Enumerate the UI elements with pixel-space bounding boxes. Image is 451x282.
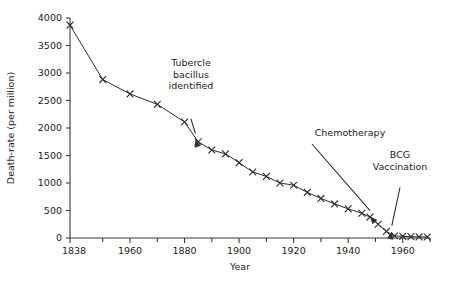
x-tick-label: 1880 bbox=[172, 245, 196, 256]
data-point-marker bbox=[208, 147, 215, 154]
y-tick-label: 2000 bbox=[38, 122, 62, 133]
annotation-arrow-shaft bbox=[191, 119, 195, 134]
data-point-marker bbox=[181, 119, 188, 126]
y-tick-label: 1000 bbox=[38, 177, 62, 188]
y-tick-label: 3000 bbox=[38, 67, 62, 78]
data-point-marker bbox=[318, 195, 325, 202]
data-point-marker bbox=[154, 101, 161, 108]
annotation-tubercle-bacillus: Tuberclebacillusidentified bbox=[169, 57, 214, 148]
tuberculosis-death-rate-chart: 05001000150020002500300035004000 1838196… bbox=[0, 0, 451, 282]
annotation-label: bacillus bbox=[173, 69, 209, 80]
data-point-marker bbox=[99, 76, 106, 83]
x-tick-label: 1940 bbox=[336, 245, 360, 256]
y-tick-label: 0 bbox=[56, 232, 62, 243]
data-point-marker bbox=[304, 189, 311, 196]
chart-annotations: TuberclebacillusidentifiedChemotherapyBC… bbox=[169, 57, 428, 240]
data-point-marker bbox=[127, 91, 134, 98]
data-point-marker bbox=[263, 173, 270, 180]
annotation-label: BCG bbox=[390, 149, 410, 160]
annotation-label: identified bbox=[169, 80, 214, 91]
chart-page: 05001000150020002500300035004000 1838196… bbox=[0, 0, 451, 282]
y-tick-label: 3500 bbox=[38, 40, 62, 51]
y-tick-label: 4000 bbox=[38, 12, 62, 23]
x-tick-label: 1900 bbox=[227, 245, 251, 256]
annotation-label: Tubercle bbox=[170, 57, 211, 68]
y-tick-label: 500 bbox=[44, 205, 62, 216]
x-tick-label: 1838 bbox=[62, 245, 86, 256]
y-axis-title: Death-rate (per million) bbox=[5, 72, 16, 184]
y-tick-label: 2500 bbox=[38, 95, 62, 106]
data-point-marker bbox=[249, 169, 256, 176]
x-tick-label: 1960 bbox=[118, 245, 142, 256]
data-point-marker bbox=[236, 159, 243, 166]
annotation-label: Vaccination bbox=[373, 161, 428, 172]
data-point-marker bbox=[375, 221, 382, 228]
data-point-marker bbox=[222, 150, 229, 157]
data-point-marker bbox=[383, 228, 390, 235]
data-point-marker bbox=[345, 205, 352, 212]
y-axis-ticks: 05001000150020002500300035004000 bbox=[38, 12, 70, 243]
x-axis-title: Year bbox=[229, 261, 250, 272]
x-tick-label: 1920 bbox=[282, 245, 306, 256]
annotation-label: Chemotherapy bbox=[315, 127, 386, 138]
x-axis-ticks: 1838196018801900192019401960 bbox=[62, 238, 430, 256]
data-point-marker bbox=[358, 210, 365, 217]
annotation-arrow-shaft bbox=[392, 188, 400, 226]
y-tick-label: 1500 bbox=[38, 150, 62, 161]
annotation-arrow-shaft bbox=[312, 144, 370, 211]
x-tick-label: 1960 bbox=[391, 245, 415, 256]
data-point-marker bbox=[331, 201, 338, 208]
